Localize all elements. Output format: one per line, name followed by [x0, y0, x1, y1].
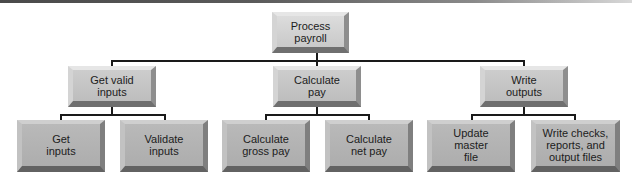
connector-write-outputs-bus	[471, 114, 575, 116]
node-calculate-gross-pay: Calculate gross pay	[222, 120, 310, 172]
node-label: Get valid inputs	[90, 74, 133, 98]
node-label: Update master file	[453, 127, 488, 163]
node-get-valid-inputs: Get valid inputs	[68, 66, 156, 107]
connector-get-valid-inputs-bus	[60, 114, 165, 116]
node-write-outputs: Write outputs	[480, 66, 568, 107]
node-label: Write outputs	[506, 74, 542, 98]
top-gradient-bar	[0, 0, 632, 3]
node-label: Write checks, reports, and output files	[543, 127, 609, 163]
node-label: Calculate gross pay	[242, 133, 290, 157]
node-validate-inputs: Validate inputs	[120, 120, 208, 172]
node-write-checks-reports: Write checks, reports, and output files	[531, 120, 620, 172]
node-calculate-pay: Calculate pay	[273, 66, 361, 107]
connector-calculate-pay-down	[316, 106, 318, 114]
node-label: Calculate pay	[294, 74, 340, 98]
node-label: Process payroll	[291, 20, 331, 44]
node-label: Calculate net pay	[346, 133, 392, 157]
node-label: Get inputs	[46, 133, 75, 157]
hierarchy-chart: Process payroll Get valid inputs Calcula…	[0, 0, 632, 180]
node-get-inputs: Get inputs	[17, 120, 105, 172]
connector-level1-bus	[111, 60, 524, 62]
connector-write-outputs-down	[523, 106, 525, 114]
connector-get-valid-inputs-down	[111, 106, 113, 114]
node-label: Validate inputs	[145, 133, 184, 157]
node-calculate-net-pay: Calculate net pay	[325, 120, 413, 172]
connector-calculate-pay-bus	[265, 114, 369, 116]
node-update-master-file: Update master file	[427, 120, 515, 172]
node-process-payroll: Process payroll	[272, 12, 349, 53]
